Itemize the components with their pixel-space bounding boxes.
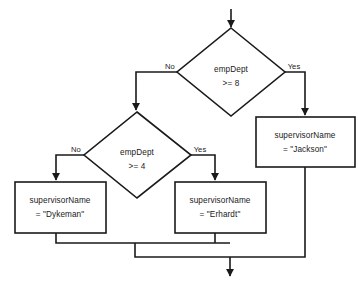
decision1-line1: empDept bbox=[214, 65, 249, 74]
erhardt-line2: = "Erhardt" bbox=[200, 210, 241, 219]
edge-decision1-no-to-decision2 bbox=[136, 72, 177, 110]
jackson-line2: = "Jackson" bbox=[283, 145, 327, 154]
process-node-erhardt[interactable] bbox=[175, 182, 266, 233]
edge-label-decision1-no: No bbox=[165, 62, 175, 71]
edge-label-decision2-no: No bbox=[71, 145, 81, 154]
dykeman-line2: = "Dykeman" bbox=[36, 210, 85, 219]
decision2-line2: >= 4 bbox=[129, 162, 146, 171]
edge-label-decision1-yes: Yes bbox=[288, 62, 301, 71]
edge-decision2-yes-to-erhardt bbox=[191, 155, 215, 180]
edge-decision1-yes-to-jackson bbox=[285, 72, 305, 115]
edge-merge-rail-step bbox=[135, 243, 230, 257]
flowchart-svg: empDept >= 8 empDept >= 4 supervisorName… bbox=[0, 0, 358, 288]
process-node-dykeman[interactable] bbox=[15, 182, 106, 233]
decision1-line2: >= 8 bbox=[223, 79, 240, 88]
erhardt-line1: supervisorName bbox=[189, 196, 250, 205]
process-node-jackson[interactable] bbox=[256, 117, 355, 167]
edge-label-decision2-yes: Yes bbox=[194, 145, 207, 154]
jackson-line1: supervisorName bbox=[274, 131, 335, 140]
edge-dykeman-to-merge bbox=[56, 233, 230, 243]
edge-decision2-no-to-dykeman bbox=[56, 155, 84, 180]
decision2-line1: empDept bbox=[120, 148, 155, 157]
flowchart-canvas: empDept >= 8 empDept >= 4 supervisorName… bbox=[0, 0, 358, 288]
dykeman-line1: supervisorName bbox=[29, 196, 90, 205]
